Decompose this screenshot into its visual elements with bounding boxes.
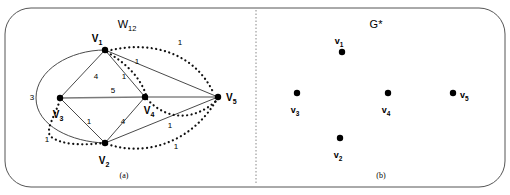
edge-weight-v3-v4: 5: [111, 86, 116, 95]
node-v2[interactable]: [337, 135, 343, 141]
dotted-edge-weight-v1-v5: 1: [178, 38, 183, 47]
node-v5[interactable]: [450, 90, 456, 96]
edge-weight-v2-v5: 1: [168, 121, 173, 130]
node-V2[interactable]: [102, 140, 108, 146]
dotted-edge-weight-v1-v4: 1: [135, 57, 140, 66]
edge-v3-v4: [60, 97, 145, 98]
edge-weight-v1-v3: 4: [94, 72, 99, 81]
figure-container: V1 V3 V4 V2 V5 4 1 5 1 4 1 3 1 1: [0, 0, 510, 195]
node-V1[interactable]: [102, 47, 108, 53]
edge-weight-v2-v4: 4: [121, 117, 126, 126]
node-v4[interactable]: [385, 90, 391, 96]
edge-weight-v1-v4: 1: [122, 72, 127, 81]
node-v1[interactable]: [339, 49, 345, 55]
node-V4[interactable]: [142, 94, 148, 100]
node-V5[interactable]: [215, 94, 221, 100]
panel-b-title: G*: [370, 18, 384, 30]
node-v3[interactable]: [294, 90, 300, 96]
dotted-edge-weight-v2-v5: 1: [174, 142, 179, 151]
dotted-edge-weight-v3-v2: 1: [45, 135, 50, 144]
edge-weight-v3-v2: 1: [87, 117, 92, 126]
edge-weight-v1-v2-outer: 3: [30, 93, 35, 102]
node-V3[interactable]: [57, 95, 63, 101]
figure-svg: V1 V3 V4 V2 V5 4 1 5 1 4 1 3 1 1: [0, 0, 510, 195]
panel-b-caption: (b): [376, 171, 386, 180]
panel-a-caption: (a): [120, 171, 129, 180]
